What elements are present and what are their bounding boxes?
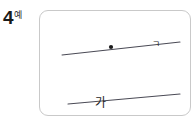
lower-line-segment (68, 94, 180, 104)
line-label-ga: 가 (95, 97, 106, 109)
figure-panel: ㄱ 가 (39, 10, 191, 116)
geometry-drawing (40, 11, 192, 117)
point-label-giyeok: ㄱ (152, 40, 160, 49)
problem-marker: 4 예 (3, 8, 22, 27)
marked-point (109, 45, 113, 49)
problem-tag: 예 (14, 10, 22, 20)
upper-line-segment (62, 42, 180, 55)
figure-screenshot: 4 예 ㄱ 가 (0, 0, 196, 123)
problem-number: 4 (3, 8, 13, 27)
